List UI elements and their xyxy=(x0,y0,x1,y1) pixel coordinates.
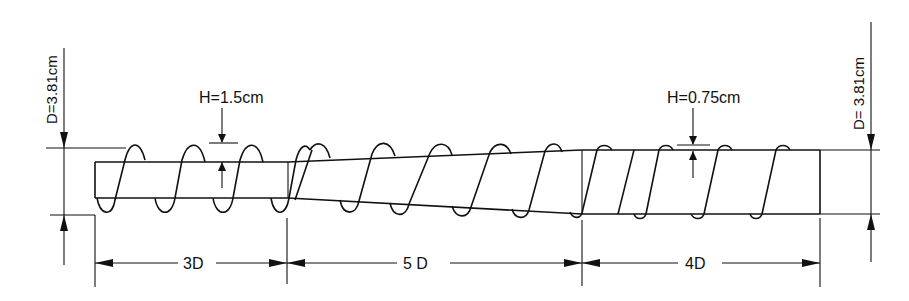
left-diameter-dimension: D=3.81cm xyxy=(43,48,126,265)
helix-section-1 xyxy=(97,145,310,212)
arrow-down-icon xyxy=(689,136,697,145)
arrow-left-icon xyxy=(582,259,600,267)
arrow-down-icon xyxy=(867,134,875,150)
left-diameter-label: D=3.81cm xyxy=(43,55,60,124)
rib-height-left-label: H=1.5cm xyxy=(199,89,263,106)
arrow-down-icon xyxy=(218,134,226,143)
arrow-up-icon xyxy=(867,214,875,230)
right-diameter-label: D= 3.81cm xyxy=(850,57,867,130)
rib-height-left-dimension: H=1.5cm xyxy=(199,89,263,188)
length-dimensions: 3D 5 D 4D xyxy=(95,215,820,287)
rib-height-right-dimension: H=0.75cm xyxy=(667,89,740,178)
arrow-right-icon xyxy=(802,259,820,267)
section-5d-label: 5 D xyxy=(403,255,428,272)
helical-rod-diagram: D=3.81cm D= 3.81cm xyxy=(0,0,909,301)
section-3d-label: 3D xyxy=(183,255,203,272)
arrow-left-icon xyxy=(95,259,113,267)
arrow-up-icon xyxy=(60,215,68,231)
arrow-right-icon xyxy=(564,259,582,267)
right-diameter-dimension: D= 3.81cm xyxy=(820,22,880,262)
section-4d-label: 4D xyxy=(685,255,705,272)
arrow-left-icon xyxy=(287,259,305,267)
arrow-down-icon xyxy=(60,132,68,148)
rib-height-right-label: H=0.75cm xyxy=(667,89,740,106)
arrow-right-icon xyxy=(269,259,287,267)
